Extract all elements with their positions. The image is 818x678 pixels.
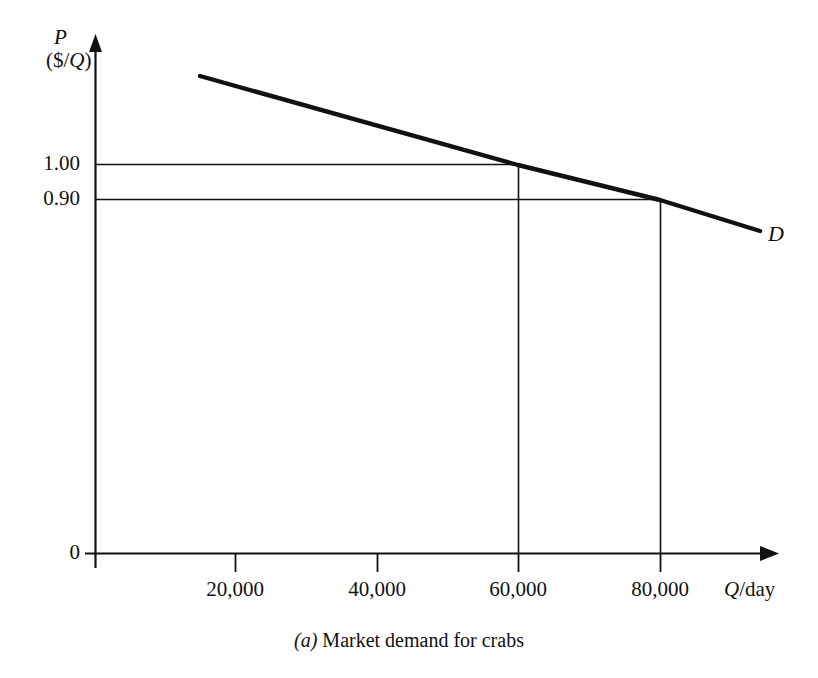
y-tick-label-origin: 0 [0, 541, 80, 564]
y-axis-title: P ($/Q) [46, 26, 92, 71]
demand-curve-line [200, 76, 760, 231]
x-tick-label-40000: 40,000 [307, 578, 447, 601]
y-axis [89, 34, 102, 568]
guide-lines [95, 165, 661, 554]
y-tick-label-0-90: 0.90 [0, 187, 80, 210]
figure-caption-text: Market demand for crabs [317, 629, 524, 651]
x-axis-arrowhead-icon [760, 546, 779, 561]
x-axis-title-rest: /day [739, 577, 775, 601]
x-tick-label-80000: 80,000 [590, 578, 730, 601]
x-axis [85, 546, 779, 561]
demand-curve-label: D [768, 222, 784, 246]
y-axis-title-line2: ($/Q) [46, 49, 92, 72]
x-tick-label-60000: 60,000 [448, 578, 588, 601]
market-demand-figure: P ($/Q) 1.00 0.90 0 20,000 40,000 60,000… [0, 0, 818, 678]
figure-caption: (a) Market demand for crabs [0, 630, 818, 652]
x-axis-ticks [236, 553, 661, 572]
demand-curve-series-d [200, 76, 760, 231]
figure-caption-prefix: (a) [294, 629, 317, 651]
y-tick-label-1-00: 1.00 [0, 152, 80, 175]
x-axis-title: Q/day [724, 578, 775, 601]
x-axis-title-var: Q [724, 577, 739, 601]
y-axis-title-line1: P [54, 25, 67, 49]
x-tick-label-20000: 20,000 [165, 578, 305, 601]
demand-curve-plot [0, 0, 818, 678]
